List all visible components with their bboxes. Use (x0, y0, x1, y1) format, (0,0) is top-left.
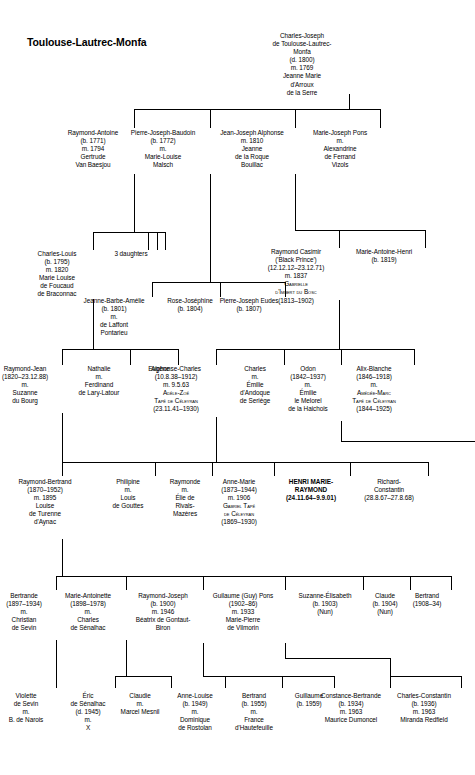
person-odon-line-1: (1842–1937) (275, 373, 341, 381)
person-bertrand-1908-line-0: Bertrand (403, 592, 451, 600)
person-violette-de-sevin-line-2: m. (0, 708, 57, 716)
person-bertrand-1955-line-4: d'Hautefeuille (225, 724, 283, 732)
connector-gen3-right-bar (339, 230, 425, 231)
connector-stem-anne-marie (274, 462, 275, 476)
person-pierre-joseph-eudes-line-0: Pierre-Joseph Eudes (213, 297, 285, 305)
person-raymond-jean-line-0: Raymond-Jean (0, 365, 62, 373)
person-jean-joseph-alphonse-line-4: Bouillac (209, 161, 295, 169)
person-guilaume-guy-pons-line-1: (1902–86) (201, 600, 285, 608)
person-anne-louise-line-2: m. (164, 708, 226, 716)
person-raymond-bertrand-line-5: d'Aynac (3, 518, 87, 526)
person-marie-antoine-henri: Marie-Antoine-Henri(b. 1819) (343, 248, 425, 264)
person-philipine-line-2: Louis (100, 494, 156, 502)
connector-root-stem-down (349, 94, 350, 109)
person-odon-line-4: le Melorel (275, 397, 341, 405)
person-anne-marie-line-4: de Céleyran (203, 510, 275, 518)
connector-drop-pierre-joseph-baudoin (210, 174, 211, 282)
person-alix-blanche-line-2: m. (334, 381, 414, 389)
connector-stem-suzanne (363, 576, 364, 590)
person-alphonse-charles-line-4: Tapé de Céleyran (136, 397, 216, 405)
person-charles-joseph: Charles-Josephde Toulouse-Lautrec-Monfa(… (255, 32, 349, 97)
person-nathalie-line-3: de Lary-Latour (68, 389, 130, 397)
connector-drop-guilaume-guy (285, 643, 286, 658)
person-alphonse-charles-line-3: Adèle-Zoé (136, 389, 216, 397)
person-claudie-line-2: Marcel Mesnil (109, 708, 171, 716)
person-pierre-joseph-eudes: Pierre-Joseph Eudes(b. 1807) (213, 297, 285, 313)
connector-stem-rose-josephine (220, 282, 221, 297)
connector-stem-raymond-joseph (203, 576, 204, 590)
connector-stem-charles (284, 349, 285, 365)
person-guilaume-guy-pons-line-4: de Vilmorin (201, 624, 285, 632)
person-raymond-bertrand: Raymond-Bertrand(1870–1952)m. 1895Louise… (3, 478, 87, 527)
connector-drop-raymond-casimir (339, 300, 340, 349)
connector-stem-claude (410, 576, 411, 590)
person-alix-blanche-line-3: Amédée-Marc (334, 389, 414, 397)
person-rose-josephine: Rose-Joséphine(b. 1804) (160, 297, 220, 313)
person-charles-joseph-line-2: Monfa (255, 48, 349, 56)
person-henri-marie-raymond-line-2: (24.11.64–9.9.01) (272, 494, 350, 502)
connector-stem-nathalie (130, 349, 131, 365)
person-charles-joseph-line-7: de la Serre (255, 89, 349, 97)
connector-drop-alphonse-charles (216, 417, 217, 462)
person-marie-joseph-pons-line-4: Vizols (300, 161, 380, 169)
connector-stem-richard (428, 462, 429, 476)
person-anne-marie-line-0: Anne-Marie (203, 478, 275, 486)
person-jean-joseph-alphonse-line-2: Jeanne (209, 145, 295, 153)
person-marie-antoinette-line-1: (1898–1978) (50, 600, 126, 608)
person-jean-joseph-alphonse-line-1: m. 1810 (209, 137, 295, 145)
connector-odon-route-right (341, 441, 475, 442)
connector-gen7-senalhac-bar (115, 676, 171, 677)
connector-stem-alix-blanche (414, 349, 415, 365)
person-odon-line-3: Émilie (275, 389, 341, 397)
connector-stem-anne-louise (225, 676, 226, 688)
person-charles-joseph-line-5: Jeanne Marie (255, 72, 349, 80)
person-alix-blanche-line-1: (1846–1918) (334, 373, 414, 381)
person-three-daughters: 3 daughters (105, 250, 157, 258)
person-raymond-casimir-line-1: ('Black Prince') (253, 256, 339, 264)
connector-stem-raymond-antoine (134, 109, 135, 128)
person-charles-joseph-line-3: (d. 1800) (255, 56, 349, 64)
person-charles-joseph-line-0: Charles-Joseph (255, 32, 349, 40)
person-marie-joseph-pons-line-2: Alexandrine (300, 145, 380, 153)
connector-stem-charles-louis (93, 232, 94, 250)
person-anne-louise-line-3: Dominique (164, 716, 226, 724)
person-jeanne-barbe-amelie-line-0: Jeanne-Barbe-Amélie (76, 297, 152, 305)
connector-stem-guillaume-1959 (334, 676, 335, 688)
person-raymond-joseph-line-1: (b. 1900) (123, 600, 203, 608)
person-guilaume-guy-pons-line-2: m. 1933 (201, 608, 285, 616)
person-rose-josephine-line-1: (b. 1804) (160, 305, 220, 313)
connector-stem-odon (341, 349, 342, 365)
person-alix-blanche-line-4: Tapé de Céleyran (334, 397, 414, 405)
connector-drop-marie-antoinette (126, 640, 127, 676)
person-constance-bertrande-line-0: Constance-Bertrande (312, 692, 390, 700)
connector-stem-bertrand-1908 (451, 576, 452, 590)
person-marie-antoine-henri-line-1: (b. 1819) (343, 256, 425, 264)
person-richard-constantin-line-0: Richard- (351, 478, 427, 486)
person-three-daughters-line-0: 3 daughters (105, 250, 157, 258)
person-raymond-casimir-line-2: (12.12.12–23.12.71) (253, 264, 339, 272)
person-raymond-jean-line-2: m. (0, 381, 62, 389)
person-jean-joseph-alphonse-line-3: de la Roque (209, 153, 295, 161)
connector-gen2-sibling-bar (134, 109, 380, 110)
person-raymond-bertrand-line-3: Louise (3, 502, 87, 510)
person-eric-de-senalhac-line-3: m. (60, 716, 116, 724)
connector-stem-claudie (171, 676, 172, 688)
person-anne-louise-line-0: Anne-Louise (164, 692, 226, 700)
person-alphonse-charles: Alphonse-Charles(10.8.38–1912)m. 9.5.63A… (136, 365, 216, 414)
person-anne-louise-line-1: (b. 1949) (164, 700, 226, 708)
person-violette-de-sevin: Violettede Sevinm.B. de Narois (0, 692, 57, 724)
person-raymond-joseph-line-4: Biron (123, 624, 203, 632)
person-anne-marie-line-5: (1869–1930) (203, 518, 275, 526)
person-guilaume-guy-pons-line-3: Marie-Pierre (201, 616, 285, 624)
person-guilaume-guy-pons: Guilaume (Guy) Pons(1902–86)m. 1933Marie… (201, 592, 285, 632)
connector-stem-jeanne-barbe (152, 282, 153, 297)
person-claudie-line-0: Claudie (109, 692, 171, 700)
person-alphonse-charles-line-5: (23.11.41–1930) (136, 405, 216, 413)
person-bertrande-line-4: de Sevin (0, 624, 56, 632)
person-suzanne-elisabeth-line-2: (Nun) (287, 608, 363, 616)
person-pierre-joseph-baudoin-line-4: Malsch (116, 161, 210, 169)
person-constance-bertrande-line-3: Maurice Dumoncel (312, 716, 390, 724)
person-anne-marie-line-1: (1873–1944) (203, 486, 275, 494)
connector-guy-route-right (285, 658, 390, 659)
person-richard-constantin-line-1: Constantin (351, 486, 427, 494)
